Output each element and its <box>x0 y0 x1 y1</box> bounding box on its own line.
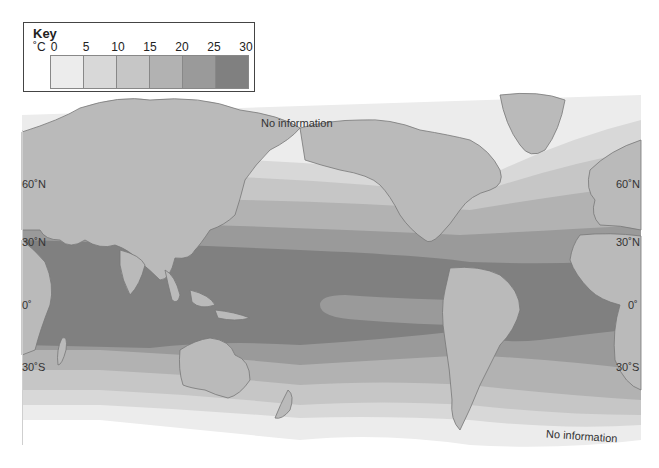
legend-tick: 5 <box>83 40 90 54</box>
legend-swatch-20-25 <box>182 55 215 89</box>
legend-swatch-5-10 <box>83 55 116 89</box>
legend-swatch-0-5 <box>50 55 83 89</box>
legend-swatch-25-30 <box>215 55 249 89</box>
legend-tick: 10 <box>111 40 124 54</box>
latitude-label-right-30s: 30˚S <box>616 361 639 373</box>
latitude-label-left-30n: 30˚N <box>22 236 46 248</box>
legend-tick: 30 <box>239 40 252 54</box>
legend-tick: 20 <box>175 40 188 54</box>
no-information-label-north: No information <box>261 117 333 129</box>
latitude-label-left-equator: 0˚ <box>22 299 32 311</box>
legend-unit: ˚C <box>33 40 46 54</box>
legend-tick: 0 <box>51 40 58 54</box>
latitude-label-left-60n: 60˚N <box>22 178 46 190</box>
legend: Key ˚C 0 5 10 15 20 25 30 <box>23 22 255 92</box>
latitude-label-right-60n: 60˚N <box>616 178 640 190</box>
latitude-label-left-30s: 30˚S <box>22 361 45 373</box>
legend-swatch-10-15 <box>116 55 149 89</box>
legend-color-bar <box>50 55 249 89</box>
latitude-label-right-equator: 0˚ <box>628 299 638 311</box>
legend-tick: 15 <box>143 40 156 54</box>
legend-title: Key <box>33 26 57 41</box>
latitude-label-right-30n: 30˚N <box>616 236 640 248</box>
legend-tick: 25 <box>207 40 220 54</box>
legend-swatch-15-20 <box>149 55 182 89</box>
